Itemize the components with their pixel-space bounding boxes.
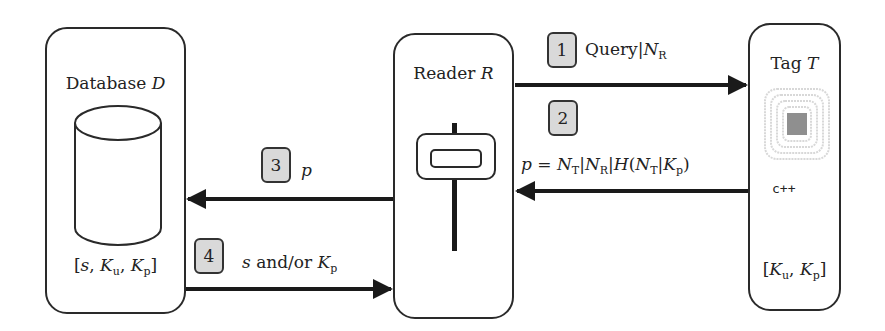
tag-chip-label: c++ [772, 181, 795, 196]
database-title: Database D [47, 73, 184, 93]
step-4-label: s and/or Kp [242, 252, 337, 272]
tag-title: Tag T [750, 53, 839, 73]
database-box: Database D [s, Ku, Kp] [45, 27, 186, 314]
step-2-badge: 2 [548, 100, 578, 136]
tag-chip-icon [763, 87, 831, 161]
database-keys: [s, Ku, Kp] [47, 255, 184, 275]
reader-device-icon [415, 123, 497, 255]
step-4-badge: 4 [194, 238, 224, 274]
tag-keys: [Ku, Kp] [750, 259, 839, 279]
tag-box: Tag T c++ [Ku, Kp] [748, 23, 841, 311]
reader-title: Reader R [395, 63, 512, 83]
step-2-label: p = NT|NR|H(NT|Kp) [521, 154, 690, 174]
step-3-label: p [301, 160, 312, 180]
step-3-badge: 3 [261, 147, 291, 183]
reader-box: Reader R [393, 33, 514, 319]
step-1-label: Query|NR [585, 39, 667, 59]
database-cylinder-icon [72, 103, 164, 249]
step-1-badge: 1 [547, 32, 577, 68]
